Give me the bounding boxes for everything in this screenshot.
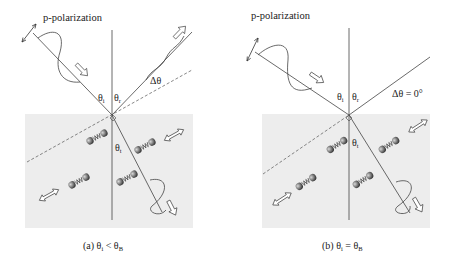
polarization-arrow-icon [247,38,258,61]
caption-b: (b) θi = θB [322,240,363,252]
reflected-ray [349,57,430,115]
incident-direction-arrow-icon [308,70,326,86]
polarization-arrow-icon [22,24,36,42]
delta-theta-label: Δθ [150,75,161,86]
medium-region [262,114,430,228]
theta-r-label: θr [114,92,122,104]
reflected-ray [112,32,192,115]
polarization-label: p-polarization [251,10,311,21]
theta-i-label: θi [337,91,344,103]
medium-region [25,114,193,228]
brewster-angle-diagram: p-polarization θi θr θt Δθ (a) θi < θB p… [0,0,450,261]
theta-i-label: θi [98,92,105,104]
incident-direction-arrow-icon [73,61,91,79]
panel-b: p-polarization θi θr θt Δθ = 0° (b) θi =… [247,10,430,252]
incident-wave [258,45,312,90]
caption-a: (a) θi < θB [83,240,124,252]
polarization-label: p-polarization [43,12,103,23]
delta-theta-label: Δθ = 0° [392,88,423,99]
panel-a: p-polarization θi θr θt Δθ (a) θi < θB [22,12,193,252]
theta-r-label: θr [352,91,360,103]
incident-ray [255,52,349,115]
